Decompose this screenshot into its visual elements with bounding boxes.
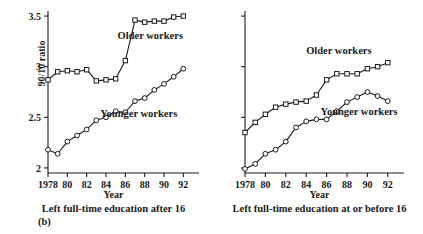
data-point-marker	[283, 139, 288, 144]
plot-area-right: 197880828486889092Older workersYounger w…	[212, 0, 423, 200]
chart-panel-left: 22.533.5197880828486889092Older workersY…	[0, 0, 211, 234]
data-point-marker	[65, 139, 70, 144]
data-point-marker	[355, 72, 359, 76]
data-point-marker	[133, 18, 137, 22]
data-point-marker	[181, 14, 185, 18]
data-point-marker	[55, 151, 60, 156]
data-point-marker	[104, 78, 108, 82]
data-point-marker	[243, 167, 248, 172]
data-point-marker	[253, 120, 257, 124]
data-point-marker	[365, 67, 369, 71]
data-point-marker	[324, 117, 329, 122]
data-point-marker	[65, 69, 69, 73]
data-point-marker	[345, 72, 349, 76]
data-point-marker	[181, 66, 186, 71]
data-point-marker	[46, 147, 51, 152]
data-point-marker	[113, 77, 117, 81]
data-point-marker	[75, 70, 79, 74]
y-tick-label: 2	[36, 163, 41, 174]
data-point-marker	[365, 90, 370, 95]
data-point-marker	[314, 93, 318, 97]
data-point-marker	[294, 125, 299, 130]
data-point-marker	[75, 133, 80, 138]
y-tick-label: 2.5	[29, 112, 42, 123]
series-annotation-younger-workers: Younger workers	[321, 106, 398, 117]
data-point-marker	[273, 105, 277, 109]
figure-b: 22.533.5197880828486889092Older workersY…	[0, 0, 423, 234]
series-line-younger-workers	[245, 92, 388, 169]
data-point-marker	[133, 99, 138, 104]
data-point-marker	[284, 102, 288, 106]
data-point-marker	[375, 94, 380, 99]
data-point-marker	[171, 15, 175, 19]
data-point-marker	[142, 96, 147, 101]
series-annotation-older-workers: Older workers	[118, 30, 183, 41]
data-point-marker	[84, 127, 89, 132]
data-point-marker	[84, 68, 88, 72]
data-point-marker	[335, 72, 339, 76]
data-point-marker	[314, 117, 319, 122]
data-point-marker	[385, 99, 390, 104]
data-point-marker	[355, 95, 360, 100]
data-point-marker	[345, 100, 350, 105]
data-point-marker	[304, 119, 309, 124]
data-point-marker	[162, 19, 166, 23]
data-point-marker	[263, 112, 267, 116]
data-point-marker	[162, 82, 167, 87]
data-point-marker	[273, 147, 278, 152]
data-point-marker	[324, 78, 328, 82]
data-point-marker	[142, 20, 146, 24]
series-annotation-older-workers: Older workers	[306, 45, 371, 56]
chart-panel-right: 197880828486889092Older workersYounger w…	[212, 0, 423, 234]
data-point-marker	[375, 64, 379, 68]
data-point-marker	[263, 151, 268, 156]
data-point-marker	[243, 130, 247, 134]
data-point-marker	[123, 58, 127, 62]
x-axis-title-left: Year	[8, 189, 219, 200]
panel-caption-right: Left full-time education at or before 16	[214, 203, 423, 214]
x-axis-title-right: Year	[214, 189, 423, 200]
data-point-marker	[94, 118, 99, 123]
data-point-marker	[386, 60, 390, 64]
series-annotation-younger-workers: Younger workers	[100, 108, 177, 119]
data-point-marker	[152, 88, 157, 93]
data-point-marker	[94, 79, 98, 83]
data-point-marker	[253, 161, 258, 166]
data-point-marker	[171, 74, 176, 79]
plot-area-left: 22.533.5197880828486889092Older workersY…	[0, 0, 211, 200]
y-axis-title-left: 90/10 ratio	[36, 19, 47, 109]
data-point-marker	[55, 70, 59, 74]
figure-label: (b)	[38, 216, 51, 227]
data-point-marker	[304, 99, 308, 103]
data-point-marker	[152, 19, 156, 23]
data-point-marker	[294, 100, 298, 104]
panel-caption-left: Left full-time education after 16	[8, 203, 219, 214]
